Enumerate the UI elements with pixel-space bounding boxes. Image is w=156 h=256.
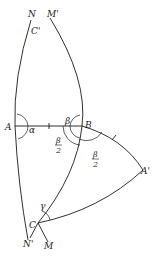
label-m: M: [43, 241, 54, 251]
label-a-prime: A': [140, 166, 150, 176]
tick-b-a-prime: [112, 135, 116, 140]
label-gamma: γ: [40, 201, 46, 211]
label-a: A: [4, 122, 12, 132]
label-half-beta-1-num: β: [55, 136, 61, 145]
label-half-beta-1-den: 2: [55, 146, 61, 155]
angle-alpha-arc: [17, 114, 28, 139]
label-alpha: α: [29, 125, 35, 135]
angle-beta-arc: [70, 115, 80, 126]
label-c-prime: C': [31, 26, 40, 36]
label-c: C: [29, 220, 36, 230]
angle-beta-half-2-arc: [79, 132, 102, 141]
label-m-prime: M': [46, 9, 59, 19]
label-n: N: [27, 9, 37, 19]
label-half-beta-2-den: 2: [92, 160, 98, 169]
label-n-prime: N': [22, 239, 33, 249]
label-b: B: [84, 120, 92, 130]
label-beta: β: [64, 116, 70, 126]
diagram-canvas: N M' C' A B A' C N' M α β γ β 2 β 2: [0, 0, 156, 256]
angle-beta-outer-arc: [63, 126, 80, 145]
angle-beta-half-1-arc: [70, 126, 80, 138]
label-half-beta-2-num: β: [92, 150, 98, 159]
side-b-a-prime: [82, 126, 143, 170]
side-c-a-prime: [38, 170, 143, 223]
